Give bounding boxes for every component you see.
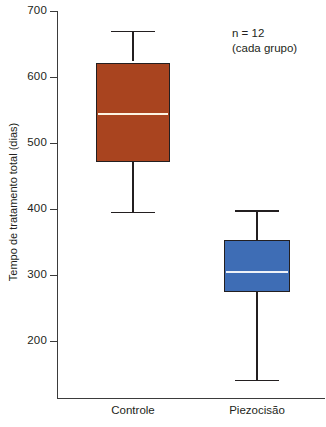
controle-whisker-cap-min bbox=[111, 212, 155, 214]
controle-whisker-stem-upper bbox=[132, 31, 134, 62]
y-tick-label-700: 700 bbox=[27, 4, 47, 16]
piezocisao-whisker-stem-upper bbox=[256, 210, 258, 240]
x-label-controle: Controle bbox=[92, 404, 174, 416]
y-tick-label-200: 200 bbox=[27, 334, 47, 346]
y-tick-400 bbox=[50, 209, 57, 210]
y-tick-200 bbox=[50, 341, 57, 342]
sample-size-annotation: n = 12 (cada grupo) bbox=[232, 26, 297, 56]
piezocisao-median-line bbox=[226, 271, 289, 273]
piezocisao-whisker-cap-min bbox=[235, 380, 279, 382]
controle-median-line bbox=[98, 113, 169, 115]
controle-whisker-stem-lower bbox=[132, 162, 134, 213]
piezocisao-box bbox=[224, 240, 290, 293]
y-tick-600 bbox=[50, 77, 57, 78]
y-tick-700 bbox=[50, 11, 57, 12]
annotation-group: (cada grupo) bbox=[232, 41, 297, 56]
y-tick-300 bbox=[50, 275, 57, 276]
controle-box bbox=[96, 63, 170, 162]
boxplot-chart: Tempo de tratamento total (dias) 700 600… bbox=[0, 0, 326, 427]
y-axis-line bbox=[57, 11, 58, 399]
y-tick-label-600: 600 bbox=[27, 70, 47, 82]
annotation-n: n = 12 bbox=[232, 26, 297, 41]
y-tick-500 bbox=[50, 143, 57, 144]
x-label-piezocisao: Piezocisão bbox=[216, 404, 298, 416]
y-tick-label-300: 300 bbox=[27, 268, 47, 280]
piezocisao-whisker-stem-lower bbox=[256, 292, 258, 380]
y-axis-title: Tempo de tratamento total (dias) bbox=[7, 117, 19, 287]
y-tick-label-500: 500 bbox=[27, 136, 47, 148]
x-axis-line bbox=[57, 398, 325, 399]
y-tick-label-400: 400 bbox=[27, 202, 47, 214]
